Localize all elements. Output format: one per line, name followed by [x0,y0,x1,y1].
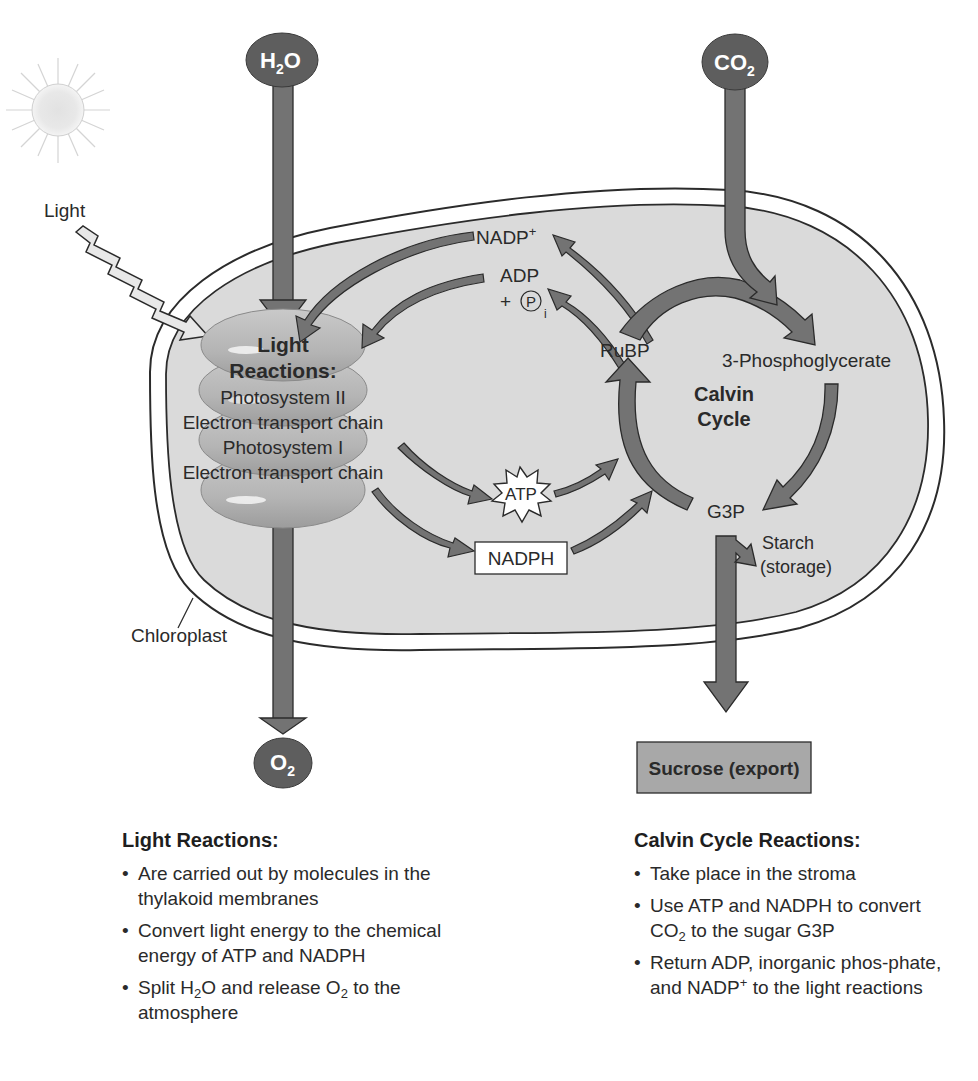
calvin-note-3: Return ADP, inorganic phos-phate, and NA… [634,950,954,1000]
svg-text:Sucrose (export): Sucrose (export) [649,758,800,779]
oxygen-arrow-head [260,718,306,734]
light-note-3: Split H2O and release O2 to the atmosphe… [122,975,482,1025]
oxygen-arrow-stem [273,520,293,725]
water-arrow-stem [273,80,293,305]
light-note-2: Convert light energy to the chemical ene… [122,918,482,968]
calvin-note-2: Use ATP and NADPH to convert CO2 to the … [634,893,954,943]
starch-label-line1: Starch [762,533,814,553]
calvin-cycle-notes-title: Calvin Cycle Reactions: [634,828,954,853]
calvin-cycle-title-line1: Calvin [694,383,754,405]
pga-label: 3-Phosphoglycerate [722,350,891,371]
sucrose-box: Sucrose (export) [637,742,811,793]
calvin-cycle-title-line2: Cycle [697,408,750,430]
calvin-note-1: Take place in the stroma [634,861,954,886]
etc-label-2: Electron transport chain [183,462,384,483]
light-reactions-notes-title: Light Reactions: [122,828,482,853]
light-zigzag-arrow [76,226,208,340]
oxygen-molecule-bubble: O2 [254,738,312,788]
adp-label: ADP [500,265,539,286]
chloroplast-label: Chloroplast [131,625,228,646]
svg-text:i: i [544,307,547,321]
svg-text:NADPH: NADPH [488,548,555,569]
svg-text:P: P [526,293,536,310]
photosystem-ii-label: Photosystem II [220,387,346,408]
adp-plus-sign: + [500,291,511,312]
light-note-1: Are carried out by molecules in the thyl… [122,861,482,911]
light-reactions-title-line2: Reactions: [229,359,336,382]
light-reactions-notes: Light Reactions: Are carried out by mole… [122,828,482,1032]
calvin-cycle-notes: Calvin Cycle Reactions: Take place in th… [634,828,954,1007]
water-molecule-bubble: H2O [246,33,318,87]
nadph-box: NADPH [475,542,567,574]
photosystem-i-label: Photosystem I [223,437,343,458]
starch-label-line2: (storage) [760,557,832,577]
etc-label-1: Electron transport chain [183,412,384,433]
g3p-label: G3P [707,501,745,522]
rubp-label: RuBP [600,340,650,361]
light-label: Light [44,200,86,221]
nadp-plus-label: NADP+ [476,224,536,248]
svg-text:ATP: ATP [505,485,537,504]
chloroplast-pointer [178,598,193,628]
co2-molecule-bubble: CO2 [702,34,768,90]
sun-icon [6,58,110,163]
